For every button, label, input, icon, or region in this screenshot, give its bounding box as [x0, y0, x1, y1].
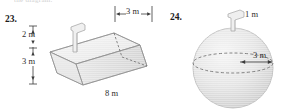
- trough-solid: [50, 33, 147, 85]
- label-length-8m: 8 m: [105, 88, 118, 98]
- figure-23-drawing: [0, 0, 286, 112]
- label-spout-height-1m: 1 m: [245, 9, 258, 19]
- label-height-top-2m: 2 m: [22, 29, 35, 39]
- label-sphere-radius-3m: 3 m: [253, 50, 266, 60]
- figure-panel: the diagram. 23. 24.: [0, 0, 286, 112]
- label-top-width-3m: 3 m: [126, 6, 139, 16]
- label-height-bottom-3m: 3 m: [22, 56, 35, 66]
